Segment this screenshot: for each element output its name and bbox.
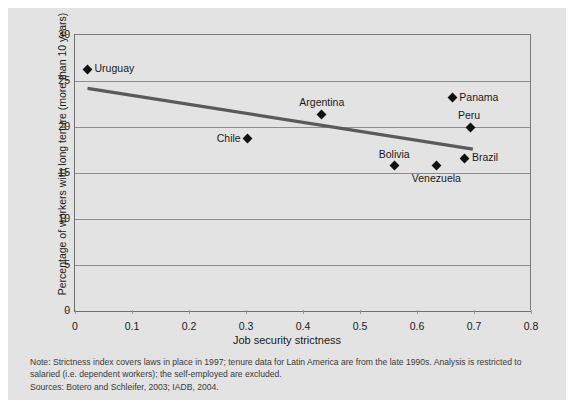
x-tick-mark: [246, 310, 247, 314]
x-tick-label: 0.3: [226, 320, 266, 332]
chart-notes: Note: Strictness index covers laws in pl…: [30, 356, 552, 393]
y-tick-mark: [65, 264, 70, 265]
x-tick-label: 0.1: [112, 320, 152, 332]
x-tick-mark: [189, 310, 190, 314]
y-tick-mark: [65, 126, 70, 127]
x-tick-label: 0.8: [511, 320, 551, 332]
x-tick-label: 0.4: [283, 320, 323, 332]
x-tick-mark: [417, 310, 418, 314]
trendline: [75, 35, 531, 311]
y-tick-mark: [65, 218, 70, 219]
data-point-label: Venezuela: [412, 173, 461, 184]
plot-area: UruguayChileArgentinaBoliviaVenezuelaPan…: [75, 34, 531, 310]
x-axis-title: Job security strictness: [8, 334, 566, 346]
data-point-label: Panama: [459, 92, 498, 103]
y-axis-ticks: 051015202530: [30, 34, 70, 310]
note-text: Note: Strictness index covers laws in pl…: [30, 356, 552, 381]
x-tick-label: 0.2: [169, 320, 209, 332]
y-tick-mark: [65, 172, 70, 173]
data-point-label: Argentina: [299, 97, 344, 108]
x-tick-mark: [75, 310, 76, 314]
x-tick-label: 0.7: [454, 320, 494, 332]
figure-panel: Percentage of workers with long tenure (…: [8, 8, 566, 400]
data-point-label: Uruguay: [95, 63, 135, 74]
data-point-label: Bolivia: [379, 149, 410, 160]
x-tick-label: 0: [55, 320, 95, 332]
data-point-label: Brazil: [472, 152, 498, 163]
x-tick-mark: [474, 310, 475, 314]
x-tick-mark: [360, 310, 361, 314]
x-axis-ticks: 00.10.20.30.40.50.60.70.8: [8, 310, 566, 336]
x-tick-label: 0.5: [340, 320, 380, 332]
data-point-label: Chile: [217, 133, 241, 144]
x-tick-label: 0.6: [397, 320, 437, 332]
x-tick-mark: [132, 310, 133, 314]
sources-text: Sources: Botero and Schleifer, 2003; IAD…: [30, 381, 552, 393]
data-point-label: Peru: [458, 110, 480, 121]
y-tick-mark: [65, 80, 70, 81]
x-tick-mark: [303, 310, 304, 314]
y-tick-mark: [65, 34, 70, 35]
x-tick-mark: [531, 310, 532, 314]
